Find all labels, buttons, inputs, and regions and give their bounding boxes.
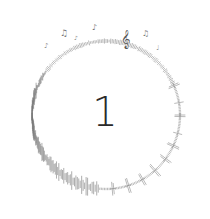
music-note-icon: ♪ [74, 34, 78, 41]
music-note-icon: ♪ [44, 42, 48, 50]
music-note-icon: ♩ [156, 44, 159, 52]
music-note-icon: ♪ [92, 23, 97, 32]
music-note-icon: ♫ [60, 28, 68, 38]
center-numeral: 1 [0, 88, 210, 136]
music-notes: 𝄞 ♫ ♪ ♫ ♪ ♩ ♪ [44, 23, 159, 52]
treble-clef-icon: 𝄞 [121, 29, 130, 49]
music-note-icon: ♫ [142, 29, 149, 38]
